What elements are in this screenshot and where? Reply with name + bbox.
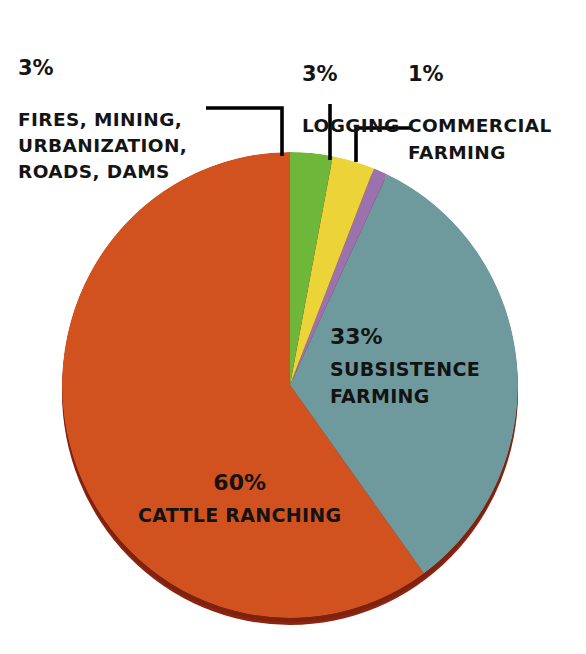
callout-commercial-farming: 1% COMMERCIAL FARMING	[408, 40, 552, 187]
leader-line-fires	[206, 108, 282, 156]
slice-label-subsistence-caption: SUBSISTENCE FARMING	[330, 356, 586, 410]
callout-commercial-percent: 1%	[408, 61, 552, 88]
callout-fires-mining-urbanization: 3% FIRES, MINING, URBANIZATION, ROADS, D…	[18, 34, 187, 206]
callout-commercial-caption: COMMERCIAL FARMING	[408, 113, 552, 167]
slice-label-cattle-ranching: 60% CATTLE RANCHING	[138, 468, 341, 529]
callout-logging-percent: 3%	[302, 61, 400, 88]
callout-logging-caption: LOGGING	[302, 113, 400, 139]
callout-fires-caption: FIRES, MINING, URBANIZATION, ROADS, DAMS	[18, 107, 187, 186]
callout-logging: 3% LOGGING	[302, 40, 400, 160]
slice-label-cattle-percent: 60%	[138, 468, 341, 499]
pie-chart-figure: 3% FIRES, MINING, URBANIZATION, ROADS, D…	[0, 0, 586, 654]
slice-label-subsistence-percent: 33%	[330, 322, 586, 353]
callout-fires-percent: 3%	[18, 55, 187, 82]
slice-label-cattle-caption: CATTLE RANCHING	[138, 502, 341, 529]
slice-label-subsistence-farming: 33% SUBSISTENCE FARMING	[330, 322, 586, 410]
